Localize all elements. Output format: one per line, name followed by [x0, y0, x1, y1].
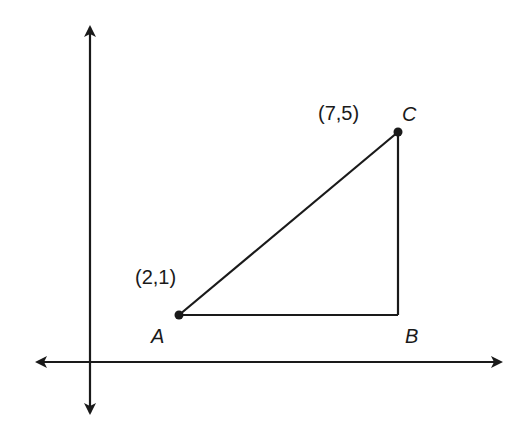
point-c — [394, 128, 403, 137]
point-a — [175, 311, 184, 320]
point-a-coord-label: (2,1) — [135, 266, 176, 288]
point-b-label: B — [405, 325, 418, 347]
point-c-coord-label: (7,5) — [318, 102, 359, 124]
point-c-label: C — [402, 103, 417, 125]
side-ac — [179, 132, 398, 315]
point-a-label: A — [150, 325, 164, 347]
diagram-canvas: (2,1) A B (7,5) C — [0, 0, 529, 438]
